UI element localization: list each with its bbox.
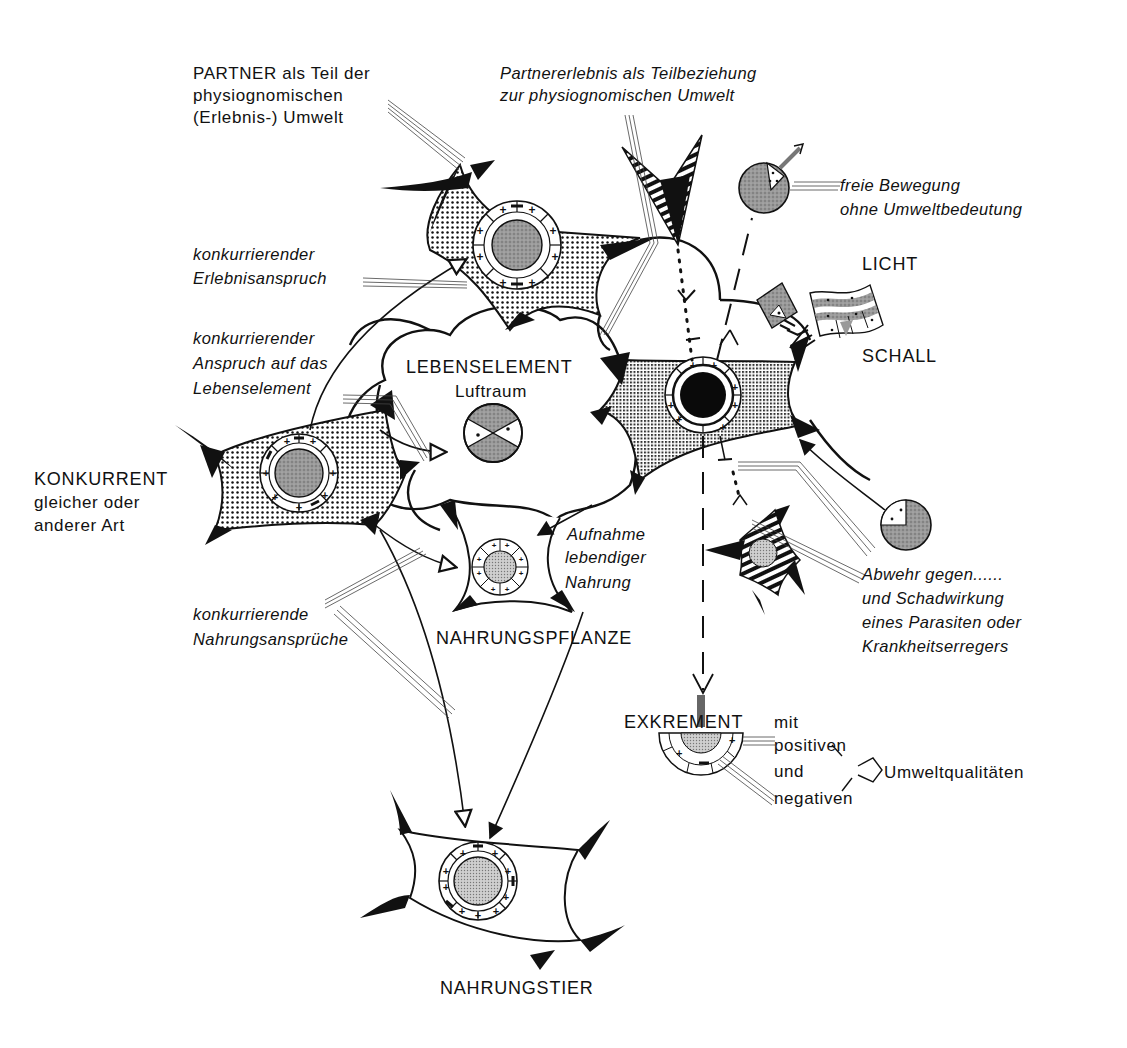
svg-text:+: +: [263, 467, 269, 479]
svg-text:+: +: [459, 905, 465, 917]
exkrement-mit: mit: [774, 713, 798, 732]
svg-text:+: +: [296, 501, 302, 513]
parasit-pie-symbol: [881, 500, 931, 550]
label-aufnahme: Aufnahme lebendiger Nahrung: [565, 525, 647, 591]
label-lebenselement: LEBENSELEMENT Luftraum: [406, 357, 572, 401]
exkrement-negativen: negativen: [774, 789, 853, 808]
svg-text:+: +: [503, 891, 509, 903]
erlebnisanspruch-line2: Erlebnisanspruch: [193, 269, 327, 287]
svg-text:+: +: [443, 865, 449, 877]
partner-line3: (Erlebnis-) Umwelt: [193, 108, 344, 127]
label-licht: LICHT: [862, 254, 918, 274]
label-partnererlebnis: Partnererlebnis als Teilbeziehung zur ph…: [499, 64, 757, 104]
partnererlebnis-line1: Partnererlebnis als Teilbeziehung: [500, 64, 757, 82]
predator-chevron-icon: [622, 135, 702, 245]
svg-text:+: +: [720, 421, 726, 433]
svg-text:+: +: [477, 569, 482, 578]
partnererlebnis-line2: zur physiognomischen Umwelt: [499, 86, 736, 104]
aufnahme-line3: Nahrung: [565, 573, 632, 591]
diagram-canvas: ++ ++ ++ ++ ++ ++ ++ +: [0, 0, 1127, 1048]
freie-bewegung-line1: freie Bewegung: [840, 176, 961, 194]
konkurrent-title: KONKURRENT: [34, 469, 168, 489]
anspruch-line1: konkurrierender: [193, 329, 316, 347]
aufnahme-line2: lebendiger: [565, 548, 647, 566]
svg-text:+: +: [711, 359, 717, 371]
label-nahrungspflanze: NAHRUNGSPFLANZE: [436, 628, 632, 648]
svg-text:+: +: [476, 224, 483, 238]
svg-text:+: +: [284, 435, 290, 447]
nahrungspflanze-ring: ++ ++ ++ ++: [472, 539, 528, 595]
label-partner: PARTNER als Teil der physiognomischen (E…: [193, 64, 370, 127]
exkrement-symbol: + +: [659, 695, 743, 775]
anspruch-line2: Anspruch auf das: [192, 354, 328, 372]
abwehr-line4: Krankheitserregers: [862, 637, 1009, 655]
svg-text:+: +: [668, 399, 674, 411]
lebenselement-subtitle: Luftraum: [455, 382, 527, 401]
svg-text:+: +: [491, 585, 496, 594]
svg-text:+: +: [330, 467, 336, 479]
partner-title: PARTNER als Teil der: [193, 64, 370, 83]
svg-text:+: +: [492, 847, 498, 859]
lebenselement-title: LEBENSELEMENT: [406, 357, 572, 377]
anspruch-line3: Lebenselement: [193, 379, 312, 397]
svg-text:+: +: [528, 276, 535, 290]
label-schall: SCHALL: [862, 346, 937, 366]
svg-text:+: +: [505, 585, 510, 594]
label-nahrungsansprueche: konkurrierende Nahrungsansprüche: [193, 605, 348, 648]
abwehr-line2: und Schadwirkung: [862, 589, 1005, 607]
svg-text:+: +: [732, 399, 738, 411]
freie-bewegung-line2: ohne Umweltbedeutung: [840, 200, 1023, 218]
schall-symbol: [790, 285, 883, 348]
abwehr-line3: eines Parasiten oder: [862, 613, 1022, 631]
svg-text:+: +: [551, 250, 558, 264]
konkurrent-ring: ++ ++ ++ +: [260, 434, 338, 513]
freie-bewegung-symbol: [739, 144, 803, 213]
svg-text:+: +: [505, 865, 511, 877]
aufnahme-line1: Aufnahme: [566, 525, 645, 543]
label-nahrungstier: NAHRUNGSTIER: [440, 978, 594, 998]
konkurrent-line3: anderer Art: [34, 516, 125, 535]
svg-text:+: +: [475, 909, 481, 921]
svg-text:+: +: [492, 541, 497, 550]
abwehr-line1: Abwehr gegen......: [861, 565, 1003, 583]
central-ring: ++ ++ ++ +: [665, 357, 741, 433]
cell-outlines: [345, 238, 870, 531]
svg-text:+: +: [460, 847, 466, 859]
svg-text:+: +: [505, 541, 510, 550]
svg-text:+: +: [477, 555, 482, 564]
exkrement-positiven: positiven: [774, 736, 847, 755]
svg-text:+: +: [519, 569, 524, 578]
label-freie-bewegung: freie Bewegung ohne Umweltbedeutung: [840, 176, 1023, 218]
svg-text:+: +: [443, 881, 449, 893]
luftraum-symbol: [464, 404, 522, 462]
svg-text:+: +: [676, 747, 682, 759]
svg-text:+: +: [549, 224, 556, 238]
svg-text:+: +: [729, 734, 735, 746]
erlebnisanspruch-line1: konkurrierender: [193, 245, 316, 263]
label-konkurrent: KONKURRENT gleicher oder anderer Art: [34, 469, 168, 535]
svg-text:+: +: [493, 905, 499, 917]
leader-lines: [325, 100, 882, 805]
partner-line2: physiognomischen: [193, 86, 343, 105]
exkrement-umweltqualitaeten: Umweltqualitäten: [884, 763, 1024, 782]
exkrement-title: EXKREMENT: [624, 712, 743, 732]
nahrungsansprueche-line2: Nahrungsansprüche: [193, 630, 348, 648]
svg-text:+: +: [272, 491, 278, 503]
svg-text:+: +: [322, 489, 328, 501]
exkrement-und: und: [774, 762, 804, 781]
svg-text:+: +: [499, 276, 506, 290]
licht-symbol: [757, 283, 798, 335]
svg-text:+: +: [519, 555, 524, 564]
svg-text:+: +: [528, 203, 535, 217]
konkurrent-line2: gleicher oder: [34, 493, 140, 512]
label-anspruch-lebenselement: konkurrierender Anspruch auf das Lebense…: [192, 329, 328, 397]
partner-ring: ++ ++ ++ ++: [473, 201, 561, 290]
svg-text:+: +: [676, 413, 682, 425]
svg-text:+: +: [310, 435, 316, 447]
svg-text:+: +: [476, 250, 483, 264]
svg-text:+: +: [732, 381, 738, 393]
label-erlebnisanspruch: konkurrierender Erlebnisanspruch: [193, 245, 327, 287]
nahrungstier-ring: ++ ++ + +++ +: [439, 842, 517, 921]
label-abwehr: Abwehr gegen...... und Schadwirkung eine…: [861, 565, 1022, 655]
nahrungsansprueche-line1: konkurrierende: [193, 605, 309, 623]
